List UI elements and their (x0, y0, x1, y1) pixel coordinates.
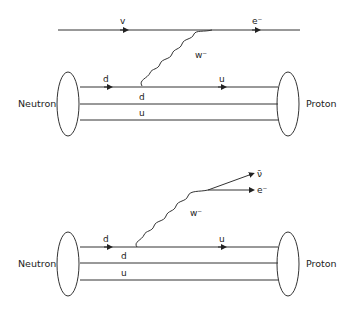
neutron-label: Neutron (18, 98, 56, 109)
diagram-2: w⁻ ν̄ e⁻ d d u u Neutron Proton (18, 169, 337, 296)
antineutrino-line (208, 174, 252, 190)
proton-oval (277, 72, 299, 136)
neutron-oval (57, 72, 79, 136)
quark-label: d (103, 74, 109, 84)
proton-label: Proton (306, 258, 337, 269)
quark-label: d (121, 251, 127, 261)
proton-oval (277, 232, 299, 296)
quark-label: u (219, 234, 225, 244)
quark-label: u (121, 268, 127, 278)
quark-label: d (103, 234, 109, 244)
neutrino-label: v (120, 16, 126, 26)
neutron-oval (57, 232, 79, 296)
neutron-label: Neutron (18, 258, 56, 269)
antineutrino-label: ν̄ (257, 169, 262, 179)
proton-label: Proton (306, 98, 337, 109)
w-boson-label: w⁻ (190, 208, 202, 218)
quark-label: u (219, 74, 225, 84)
quark-label: d (139, 92, 145, 102)
electron-label: e⁻ (257, 185, 268, 195)
quark-label: u (139, 108, 145, 118)
electron-label: e⁻ (252, 16, 263, 26)
w-boson-line (136, 190, 208, 247)
beta-decay-diagrams: v e⁻ w⁻ d d u u Neutron Proton w⁻ ν̄ e⁻ … (0, 0, 348, 315)
w-boson-label: w⁻ (195, 50, 207, 60)
diagram-1: v e⁻ w⁻ d d u u Neutron Proton (18, 16, 337, 136)
